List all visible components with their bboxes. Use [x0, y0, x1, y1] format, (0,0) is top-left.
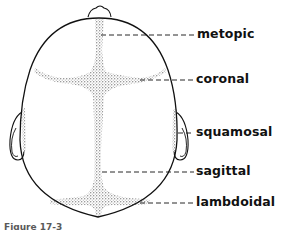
suture-regions — [21, 19, 177, 216]
figure-caption: Figure 17-3 — [4, 222, 62, 230]
label-coronal: coronal — [196, 73, 249, 86]
nose-outline — [88, 6, 111, 17]
label-lambdoidal: lambdoidal — [196, 196, 275, 209]
label-sagittal: sagittal — [196, 165, 251, 178]
label-metopic: metopic — [197, 28, 254, 41]
label-squamosal: squamosal — [196, 126, 272, 139]
